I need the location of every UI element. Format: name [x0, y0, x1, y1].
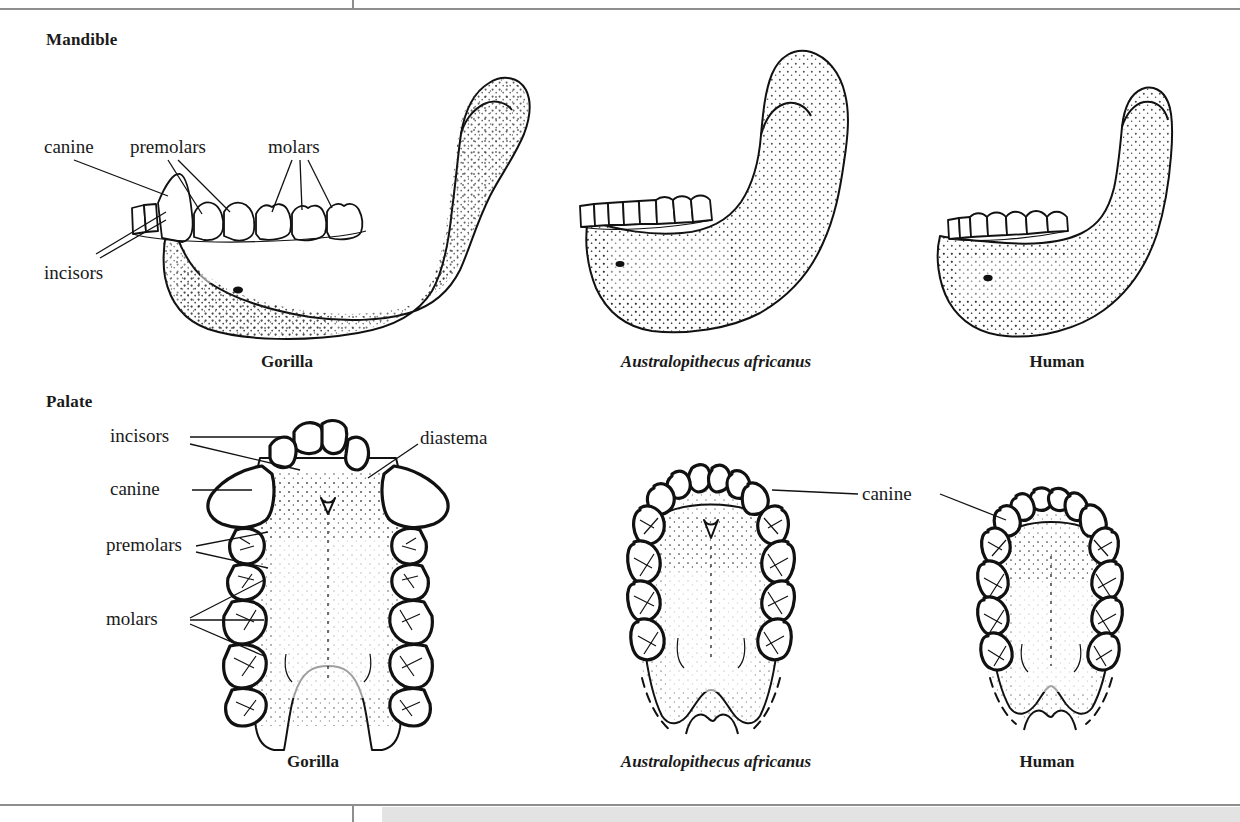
caption-palate-australopithecus: Australopithecus africanus	[621, 752, 811, 772]
caption-palate-human: Human	[1020, 752, 1075, 772]
figure-page: Mandible Palate	[0, 0, 1240, 822]
palate-leader-lines	[0, 0, 1240, 822]
caption-palate-gorilla: Gorilla	[287, 752, 339, 772]
